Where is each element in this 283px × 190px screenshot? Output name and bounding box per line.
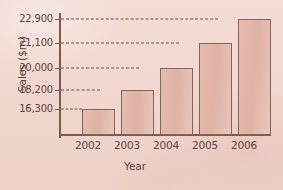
plot-area bbox=[60, 16, 270, 135]
x-tick-label-2004: 2004 bbox=[146, 140, 186, 151]
x-tick-label-2006: 2006 bbox=[224, 140, 264, 151]
x-tick-label-2002: 2002 bbox=[68, 140, 108, 151]
sales-by-year-bar-chart: 22,900 21,100 20,000 18,200 16,300 2002 … bbox=[0, 0, 283, 190]
bar-2006 bbox=[238, 19, 271, 135]
y-tick-label: 22,900 bbox=[1, 14, 53, 24]
y-axis-title: Sales ($m) bbox=[16, 24, 28, 104]
x-axis-title: Year bbox=[60, 160, 210, 172]
bar-2002 bbox=[82, 109, 115, 135]
y-tick-label: 16,300 bbox=[1, 104, 53, 114]
bar-2003 bbox=[121, 90, 154, 135]
bar-2004 bbox=[160, 68, 193, 135]
bar-2005 bbox=[199, 43, 232, 135]
x-tick-label-2003: 2003 bbox=[107, 140, 147, 151]
x-tick-label-2005: 2005 bbox=[185, 140, 225, 151]
